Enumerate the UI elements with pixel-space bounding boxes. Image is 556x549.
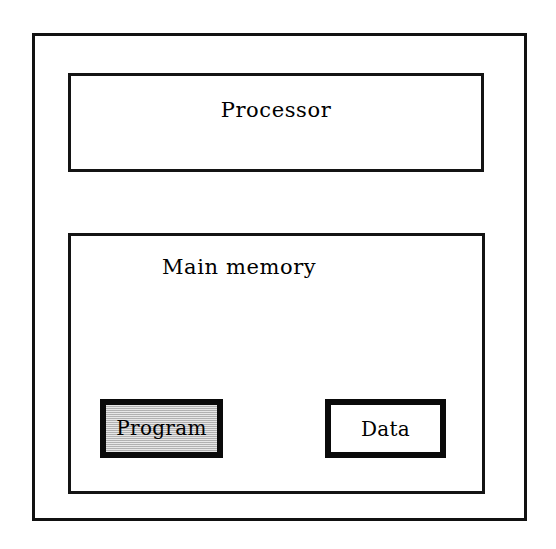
program-region-block: Program <box>100 399 223 458</box>
data-label: Data <box>361 419 410 439</box>
main-memory-label: Main memory <box>162 257 316 278</box>
processor-label: Processor <box>71 100 481 121</box>
data-region-block: Data <box>325 399 446 458</box>
processor-block: Processor <box>68 73 484 172</box>
program-label: Program <box>116 418 206 439</box>
diagram-canvas: Processor Main memory Program Data <box>0 0 556 549</box>
